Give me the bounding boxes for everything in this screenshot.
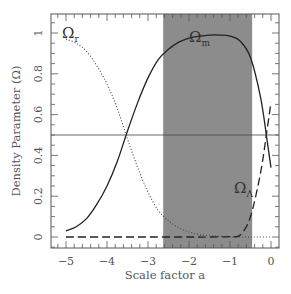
density-parameter-chart: −5−4−3−2−1000.20.40.60.81 Scale factor a… — [0, 0, 291, 294]
x-tick-label: −1 — [222, 255, 238, 268]
y-tick-label: 0.4 — [32, 147, 45, 165]
y-tick-label: 1 — [32, 30, 45, 37]
x-tick-label: −3 — [140, 255, 156, 268]
x-tick-label: −5 — [58, 255, 74, 268]
y-tick-label: 0.2 — [32, 187, 45, 205]
y-tick-label: 0.6 — [32, 106, 45, 124]
y-tick-label: 0.8 — [32, 65, 45, 83]
x-axis-label: Scale factor a — [125, 268, 206, 282]
x-tick-label: −4 — [99, 255, 115, 268]
series-label-r: Ωr — [62, 24, 79, 44]
x-tick-label: −2 — [181, 255, 197, 268]
y-axis-label: Density Parameter (Ω) — [9, 65, 23, 196]
y-tick-label: 0 — [32, 234, 45, 241]
shaded-region — [163, 14, 252, 248]
x-tick-label: 0 — [268, 255, 275, 268]
